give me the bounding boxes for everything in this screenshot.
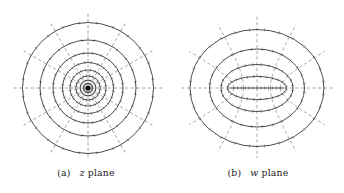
caption-z-plane: (a) z plane	[0, 158, 172, 186]
w-hyperbola	[280, 51, 324, 88]
caption-tag-a: (a)	[57, 167, 70, 178]
caption-tag-b: (b)	[228, 167, 242, 178]
panel-z-plane: (a) z plane	[0, 0, 172, 193]
w-hyperbola	[280, 88, 324, 125]
panel-w-plane: (b) w plane	[172, 0, 344, 193]
caption-word-plane-a: plane	[88, 167, 115, 178]
caption-variable-w: w	[250, 167, 258, 178]
w-hyperbola	[189, 51, 233, 88]
caption-variable-z: z	[80, 167, 85, 178]
w-plane-plot	[172, 6, 344, 158]
z-plane-plot	[0, 6, 172, 158]
z-origin-marker	[85, 85, 90, 90]
conformal-mapping-figure: (a) z plane (b) w plane	[0, 0, 344, 193]
caption-word-plane-b: plane	[262, 167, 289, 178]
caption-w-plane: (b) w plane	[172, 158, 344, 186]
w-hyperbola	[189, 88, 233, 125]
